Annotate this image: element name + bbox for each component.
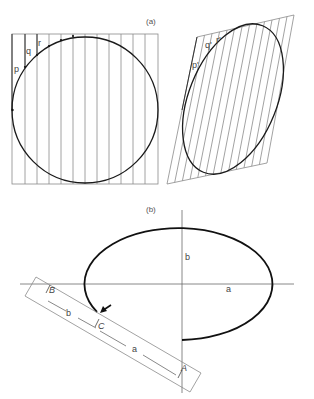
label-q-prime: q' <box>205 40 212 50</box>
label-p-prime: p' <box>192 60 199 70</box>
point-A-label: A <box>180 363 187 373</box>
semi-minor-label: b <box>185 252 190 262</box>
arrow-icon <box>100 305 111 313</box>
semi-major-label: a <box>226 284 231 294</box>
ellipse-construction-diagram: (a) p q r <box>0 0 314 399</box>
label-p: p <box>14 64 19 74</box>
point-B-label: B <box>49 285 55 295</box>
label-r-prime: r' <box>216 35 221 45</box>
label-r: r <box>38 38 41 48</box>
label-q: q <box>26 46 31 56</box>
point-C-label: C <box>98 321 105 331</box>
caption-a: (a) <box>146 17 156 26</box>
caption-b: (b) <box>146 205 156 214</box>
dimension-a-label: a <box>132 344 137 354</box>
dimension-b-label: b <box>66 308 71 318</box>
circle-points <box>11 35 74 111</box>
